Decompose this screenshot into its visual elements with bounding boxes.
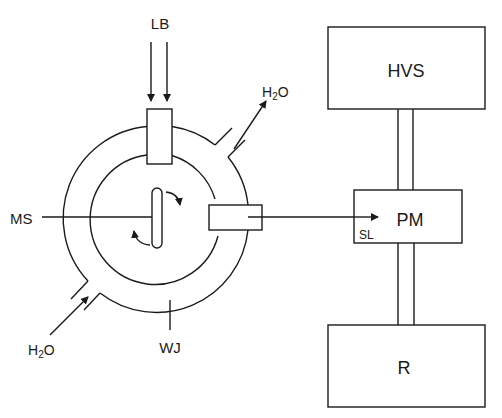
laser-beam-arrows (151, 42, 167, 101)
schematic-diagram: LB H2O H2O MS (0, 0, 502, 418)
ms-label: MS (10, 210, 33, 227)
water-outlet-pipe (215, 101, 266, 157)
pm-label: PM (397, 210, 424, 230)
hvs-label: HVS (387, 61, 424, 81)
h2o-outlet-label: H2O (262, 84, 289, 102)
wj-label: WJ (159, 339, 181, 356)
lb-label: LB (151, 15, 169, 32)
r-label: R (398, 358, 411, 378)
hvs-pm-connector (398, 109, 413, 190)
sl-label: SL (359, 228, 374, 242)
water-inlet-pipe (50, 281, 100, 335)
magnetic-stirrer (152, 188, 162, 248)
pm-r-connector (398, 243, 414, 325)
laser-window (147, 109, 172, 164)
h2o-inlet-label: H2O (28, 342, 55, 360)
